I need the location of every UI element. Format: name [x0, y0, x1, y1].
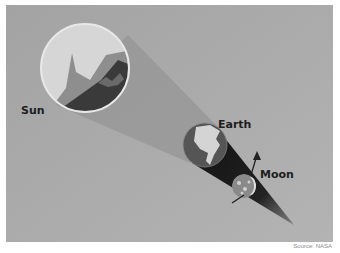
source-caption: Source: NASA [293, 243, 332, 249]
eclipse-illustration [6, 5, 333, 242]
moon-label: Moon [260, 168, 294, 181]
earth-label: Earth [218, 118, 251, 131]
sun-label: Sun [21, 104, 45, 117]
diagram-panel: Sun Earth Moon [6, 5, 333, 242]
